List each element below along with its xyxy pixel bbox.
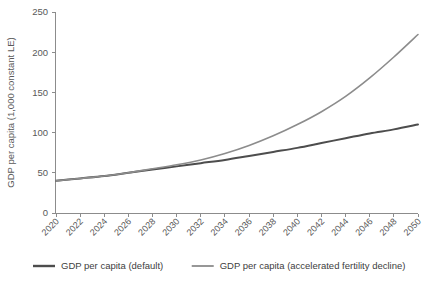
legend-label-1: GDP per capita (default) [61, 260, 163, 271]
x-tick-label: 2040 [281, 216, 302, 237]
x-tick-label: 2036 [233, 216, 254, 237]
x-tick-label: 2024 [88, 216, 109, 237]
line-chart: 0501001502002502020202220242026202820302… [0, 0, 429, 281]
x-tick-label: 2028 [136, 216, 157, 237]
x-tick-label: 2026 [112, 216, 133, 237]
x-tick-label: 2046 [353, 216, 374, 237]
x-tick-label: 2020 [40, 216, 61, 237]
x-tick-label: 2030 [160, 216, 181, 237]
x-tick-label: 2022 [64, 216, 85, 237]
x-tick-label: 2044 [329, 216, 350, 237]
x-tick-label: 2034 [209, 216, 230, 237]
y-tick-label: 250 [32, 6, 48, 17]
y-tick-label: 50 [37, 167, 48, 178]
x-tick-label: 2048 [378, 216, 399, 237]
y-tick-label: 0 [43, 207, 48, 218]
x-tick-label: 2032 [184, 216, 205, 237]
y-tick-label: 150 [32, 87, 48, 98]
chart-container: 0501001502002502020202220242026202820302… [0, 0, 429, 281]
x-tick-label: 2042 [305, 216, 326, 237]
x-tick-label: 2050 [402, 216, 423, 237]
y-tick-label: 200 [32, 47, 48, 58]
y-axis-title: GDP per capita (1,000 constant LE) [5, 37, 16, 187]
x-tick-label: 2038 [257, 216, 278, 237]
series-line-1 [56, 125, 418, 181]
y-tick-label: 100 [32, 127, 48, 138]
legend-label-2: GDP per capita (accelerated fertility de… [220, 260, 406, 271]
